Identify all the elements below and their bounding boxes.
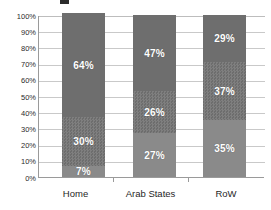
bar-segment-bottom: 7% <box>62 166 105 177</box>
y-axis-tick-label: 90% <box>2 29 36 37</box>
bar-row: 29% 37% 35% <box>203 15 246 177</box>
bar-segment-label: 30% <box>73 136 94 147</box>
bar-segment-label: 27% <box>144 150 165 161</box>
bar-segment-bottom: 35% <box>203 120 246 177</box>
x-axis-label-text: Arab States <box>126 188 176 199</box>
bar-segment-label: 64% <box>73 60 94 71</box>
stacked-bar-chart: 100% 90% 80% 70% 60% 50% 40% 30% 20% 10%… <box>0 0 271 210</box>
y-axis-tick-label: 40% <box>2 110 36 118</box>
bar-segment-label: 7% <box>76 166 91 177</box>
bar-home: 64% 30% 7% <box>62 15 105 177</box>
y-axis-tick-label: 70% <box>2 61 36 69</box>
y-axis-tick-label: 10% <box>2 158 36 166</box>
bar-segment-middle: 37% <box>203 62 246 120</box>
y-axis-tick-label: 20% <box>2 142 36 150</box>
x-axis-divider <box>188 178 189 182</box>
bar-segment-top: 64% <box>62 13 105 117</box>
bar-segment-middle: 26% <box>133 91 176 133</box>
bar-segment-label: 35% <box>214 143 235 154</box>
bar-segment-label: 26% <box>144 107 165 118</box>
y-axis-tick-label: 100% <box>2 13 36 21</box>
bar-segment-middle: 30% <box>62 117 105 166</box>
x-axis-label-home: Home <box>38 188 113 199</box>
x-axis-label-row: RoW <box>188 188 264 199</box>
bar-segment-bottom: 27% <box>133 133 176 177</box>
plot-area: 64% 30% 7% 47% 26% 27% 29% <box>38 16 264 178</box>
y-axis-tick-label: 0% <box>2 175 36 183</box>
y-axis-tick-label: 30% <box>2 126 36 134</box>
bar-segment-label: 47% <box>144 48 165 59</box>
bar-segment-top: 47% <box>133 15 176 91</box>
x-axis-label-text: RoW <box>215 188 236 199</box>
x-axis-label-arab-states: Arab States <box>113 188 188 199</box>
bar-arab-states: 47% 26% 27% <box>133 15 176 177</box>
y-axis-tick-label: 80% <box>2 45 36 53</box>
bar-segment-label: 37% <box>214 86 235 97</box>
chart-title-fragment <box>60 0 69 4</box>
x-axis-label-text: Home <box>63 188 88 199</box>
y-axis: 100% 90% 80% 70% 60% 50% 40% 30% 20% 10%… <box>0 0 36 210</box>
y-axis-tick-label: 60% <box>2 77 36 85</box>
bar-segment-top: 29% <box>203 15 246 62</box>
x-axis-divider <box>113 178 114 182</box>
y-axis-tick-label: 50% <box>2 94 36 102</box>
bar-segment-label: 29% <box>214 33 235 44</box>
